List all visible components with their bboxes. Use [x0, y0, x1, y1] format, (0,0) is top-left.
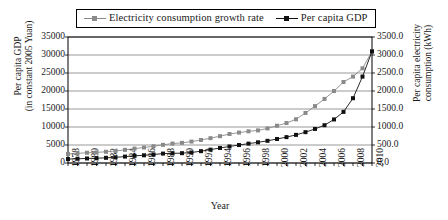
data-point-marker: [247, 129, 251, 133]
data-point-marker: [313, 127, 317, 131]
data-point-marker: [218, 146, 222, 150]
series-line-electricity: [68, 51, 372, 154]
chart-figure: Electricity consumption growth rate Per …: [0, 0, 448, 220]
data-point-marker: [171, 142, 175, 146]
data-point-marker: [85, 156, 89, 160]
data-point-marker: [304, 111, 308, 115]
data-point-marker: [266, 139, 270, 143]
data-point-marker: [104, 150, 108, 154]
data-point-marker: [104, 156, 108, 160]
data-point-marker: [361, 75, 365, 79]
data-point-marker: [351, 96, 355, 100]
data-point-marker: [247, 142, 251, 146]
data-point-marker: [199, 149, 203, 153]
data-point-marker: [275, 124, 279, 128]
data-point-marker: [66, 157, 70, 161]
data-point-marker: [133, 154, 137, 158]
data-point-marker: [161, 143, 165, 147]
data-point-marker: [85, 151, 89, 155]
data-point-marker: [342, 110, 346, 114]
data-point-marker: [123, 155, 127, 159]
data-point-marker: [228, 132, 232, 136]
data-point-marker: [161, 152, 165, 156]
data-point-marker: [351, 75, 355, 79]
data-point-marker: [95, 156, 99, 160]
data-point-marker: [332, 89, 336, 93]
data-point-marker: [361, 66, 365, 70]
data-point-marker: [209, 136, 213, 140]
data-point-marker: [332, 117, 336, 121]
data-point-marker: [313, 104, 317, 108]
data-point-marker: [171, 151, 175, 155]
data-point-marker: [180, 151, 184, 155]
data-point-marker: [152, 152, 156, 156]
data-point-marker: [342, 80, 346, 84]
data-point-marker: [66, 152, 70, 156]
data-point-marker: [76, 151, 80, 155]
data-point-marker: [95, 150, 99, 154]
data-point-marker: [142, 153, 146, 157]
data-point-marker: [237, 143, 241, 147]
data-point-marker: [304, 130, 308, 134]
data-point-marker: [228, 144, 232, 148]
data-point-marker: [152, 144, 156, 148]
plot-area: [0, 0, 448, 220]
data-point-marker: [256, 128, 260, 132]
data-point-marker: [370, 49, 374, 53]
data-point-marker: [237, 131, 241, 135]
series-line-gdp: [68, 51, 372, 159]
data-point-marker: [76, 157, 80, 161]
data-point-marker: [275, 137, 279, 141]
data-point-marker: [133, 147, 137, 151]
data-point-marker: [114, 149, 118, 153]
data-point-marker: [123, 148, 127, 152]
data-point-marker: [256, 140, 260, 144]
data-point-marker: [285, 135, 289, 139]
data-point-marker: [190, 140, 194, 144]
data-point-marker: [142, 146, 146, 150]
data-point-marker: [285, 121, 289, 125]
data-point-marker: [294, 133, 298, 137]
data-point-marker: [323, 123, 327, 127]
data-point-marker: [209, 148, 213, 152]
data-point-marker: [190, 150, 194, 154]
data-point-marker: [114, 155, 118, 159]
data-point-marker: [323, 97, 327, 101]
data-point-marker: [218, 134, 222, 138]
data-point-marker: [180, 141, 184, 145]
data-point-marker: [199, 138, 203, 142]
data-point-marker: [294, 117, 298, 121]
data-point-marker: [266, 126, 270, 130]
